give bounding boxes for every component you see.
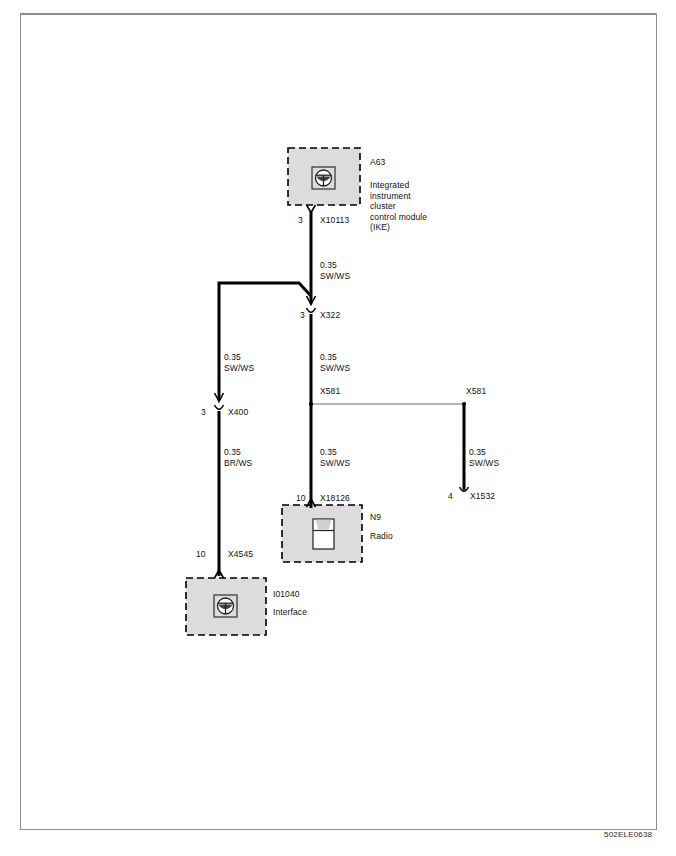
splice-dot-x581-left [309,402,313,406]
connector-x10113-pin: 3 [298,215,303,226]
wire-x581-x1532-gauge: 0.35 [469,447,486,458]
module-n9-name: Radio [370,531,393,542]
module-box-i01040[interactable] [186,578,266,635]
connector-symbol-x10113 [307,205,316,213]
connector-x322-pin: 3 [300,310,305,321]
connector-x18126-name: X18126 [320,493,350,504]
module-i01040-name: Interface [273,607,307,618]
wire-branch-x400-gauge: 0.35 [224,352,241,363]
module-a63-name-3: cluster [370,201,396,212]
radio-unit-icon [313,519,334,549]
module-a63-name-5: (IKE) [370,222,390,233]
module-a63-name-2: instrument [370,191,411,202]
diagram-page: A63 Integrated instrument cluster contro… [0,0,676,856]
wire-x322-x581-gauge: 0.35 [320,352,337,363]
module-box-a63[interactable] [288,148,360,205]
wire-x400-x4545-gauge: 0.35 [224,447,241,458]
wire-branch-to-x400 [219,283,311,400]
splice-x581-left-label: X581 [320,386,340,397]
splice-x581-right-label: X581 [466,386,486,397]
wire-x322-x581-color: SW/WS [320,363,350,374]
connector-x322-name: X322 [320,310,340,321]
connector-x4545-pin: 10 [196,549,206,560]
module-n9-ref: N9 [370,512,381,523]
connector-x1532-pin: 4 [448,491,453,502]
wire-branch-x400-color: SW/WS [224,363,254,374]
wire-x581-x18126-gauge: 0.35 [320,447,337,458]
wire-x581-x18126-color: SW/WS [320,458,350,469]
wire-ike-x322-color: SW/WS [320,271,350,282]
wire-x581-x1532-color: SW/WS [469,458,499,469]
module-i01040-ref: I01040 [273,589,300,600]
module-a63-ref: A63 [370,157,385,168]
connector-x400-pin: 3 [201,407,206,418]
connector-x18126-pin: 10 [296,493,306,504]
module-a63-name-4: control module [370,212,427,223]
module-a63-name-1: Integrated [370,180,409,191]
connector-x4545-name: X4545 [228,549,253,560]
module-box-n9[interactable] [282,505,362,562]
splice-dot-x581-right [462,402,466,406]
wiring-diagram-canvas [0,0,676,856]
wire-x400-x4545-color: BR/WS [224,458,252,469]
connector-x10113-name: X10113 [320,215,349,226]
document-id-label: 502ELE0638 [604,830,652,839]
connector-x1532-name: X1532 [470,491,495,502]
wire-ike-x322-gauge: 0.35 [320,260,337,271]
connector-x400-name: X400 [228,407,248,418]
